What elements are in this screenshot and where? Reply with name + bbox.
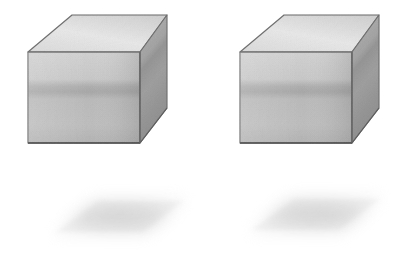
cube-right-body	[240, 15, 379, 143]
cube-right	[240, 15, 379, 143]
cube-left	[28, 15, 167, 143]
cubes-illustration-svg	[0, 0, 398, 257]
cube-left-body	[28, 15, 167, 143]
illustration-canvas: Two identical light gray cubes with cast…	[0, 0, 398, 257]
